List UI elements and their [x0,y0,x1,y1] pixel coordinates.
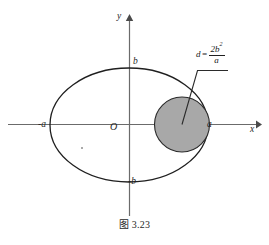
formula-fraction: 2b2 a [209,43,225,65]
x-axis-arrowhead [256,121,262,129]
y-axis-arrowhead [126,14,133,21]
formula-denominator: a [212,56,221,66]
formula-numerator-exponent: 2 [220,41,223,47]
figure-caption: 图 3.23 [0,216,269,231]
tick-label-negative-a: -a [38,120,46,130]
tick-label-negative-b: -b [128,177,136,187]
formula-equals-sign: = [202,50,208,59]
formula-numerator-base: b [215,44,220,54]
diameter-formula-annotation: d = 2b2 a [196,43,225,65]
y-axis-label: y [117,12,121,22]
formula-numerator: 2b2 [209,43,225,55]
tick-label-a: a [207,120,212,130]
x-axis-label: x [250,125,254,135]
formula-variable: d [196,50,201,59]
tick-label-b: b [133,57,138,67]
scan-speckle [81,147,83,149]
origin-label: O [110,122,117,132]
figure-container: y x O b -b a -a d = 2b2 a 图 3.23 [0,0,269,245]
